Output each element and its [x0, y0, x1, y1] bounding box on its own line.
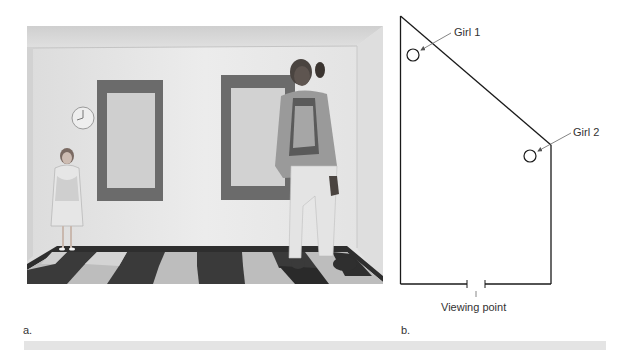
girl2-label: Girl 2: [573, 126, 599, 138]
girl2-leader-arrow: [538, 133, 571, 151]
wall-clock-icon: [72, 107, 94, 129]
panel-b-label: b.: [401, 324, 410, 336]
viewing-point-label: Viewing point: [441, 301, 506, 313]
girl1-position-marker: [407, 49, 419, 61]
checkered-floor: [27, 252, 383, 284]
panel-a-label: a.: [23, 324, 32, 336]
girl1-leader-arrow: [421, 33, 451, 50]
ames-room-photo: [27, 26, 383, 284]
left-window: [97, 80, 163, 201]
girl1-label: Girl 1: [454, 26, 480, 38]
ames-room-floorplan-diagram: [390, 0, 623, 330]
footer-divider-band: [24, 341, 606, 350]
girl2-position-marker: [524, 150, 536, 162]
